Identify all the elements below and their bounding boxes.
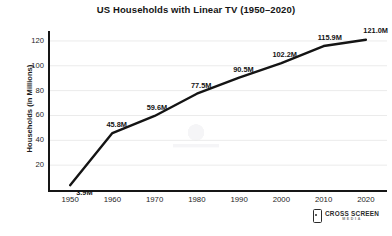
y-tick-label: 60 [4,110,44,119]
x-tick-label: 1970 [132,195,178,204]
data-point-label: 45.8M [106,120,127,129]
data-line-series [70,40,366,185]
data-point-label: 121.0M [363,26,388,35]
x-tick-label: 1980 [174,195,220,204]
logo-sub-text: MEDIA [325,218,379,222]
y-tick-label: 100 [4,61,44,70]
gridlines [49,41,387,165]
data-point-label: 115.9M [318,33,342,42]
x-tick-label: 1990 [216,195,262,204]
x-tick-label: 2000 [258,195,304,204]
logo-main-text: CROSS SCREEN [325,211,379,217]
y-axis-line [48,31,50,191]
x-tick-label: 1960 [89,195,135,204]
plot-svg [49,31,387,190]
chart-container: US Households with Linear TV (1950–2020)… [0,0,392,236]
data-point-label: 3.9M [76,188,92,197]
x-tick-label: 2020 [343,195,389,204]
chart-title: US Households with Linear TV (1950–2020) [0,4,392,15]
y-axis-ticks: 20406080100120 [0,0,44,236]
logo-wordmark: CROSS SCREEN MEDIA [325,211,379,222]
y-tick-label: 120 [4,36,44,45]
data-point-label: 77.5M [191,81,212,90]
x-axis-line [48,190,387,192]
y-tick-label: 40 [4,135,44,144]
plot-area [49,31,387,190]
y-tick-label: 80 [4,86,44,95]
x-tick-label: 2010 [301,195,347,204]
y-tick-label: 20 [4,160,44,169]
data-point-label: 102.2M [272,50,297,59]
data-point-label: 59.6M [147,103,168,112]
cross-screen-media-logo: CROSS SCREEN MEDIA [313,209,379,223]
mobile-device-icon [313,209,322,223]
data-point-label: 90.5M [233,65,254,74]
